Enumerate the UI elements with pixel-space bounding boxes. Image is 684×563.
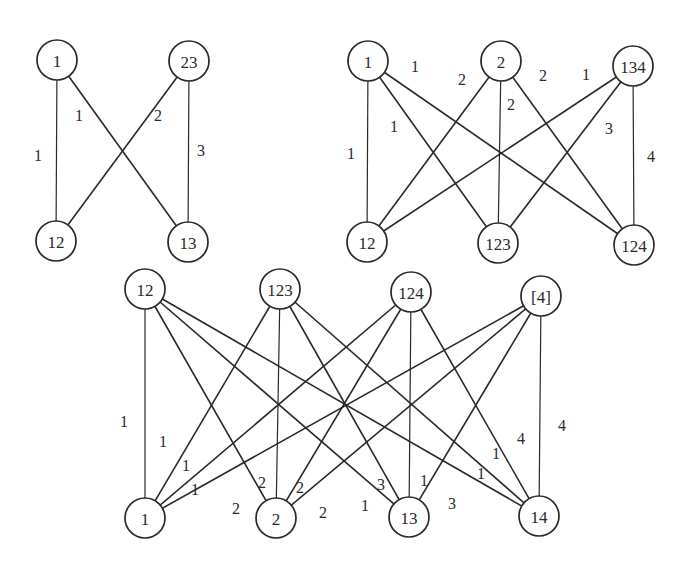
graph-c-edges — [145, 289, 541, 518]
graph-c-edge-labels: 1211123112141234 — [120, 413, 566, 521]
edge-weight-label: 4 — [647, 148, 655, 165]
edge-weight-label: 2 — [154, 107, 162, 124]
node-b-1: 1 — [348, 41, 388, 81]
edge-c-4-c-14 — [539, 296, 541, 516]
edge-weight-label: 2 — [296, 479, 304, 496]
edge-weight-label: 1 — [582, 66, 590, 83]
node-b-12: 12 — [347, 222, 387, 262]
edge-weight-label: 1 — [34, 147, 42, 164]
edge-weight-label: 1 — [492, 445, 500, 462]
edge-weight-label: 2 — [539, 67, 547, 84]
edge-weight-label: 2 — [319, 504, 327, 521]
node-b-134: 134 — [613, 46, 653, 86]
edge-weight-label: 1 — [159, 433, 167, 450]
node-a-12: 12 — [36, 221, 76, 261]
node-label: 123 — [485, 235, 511, 254]
node-b-2: 2 — [481, 41, 521, 81]
edge-b-134-b-124 — [633, 66, 634, 245]
edge-weight-label: 1 — [191, 481, 199, 498]
edge-c-4-c-2 — [276, 296, 541, 518]
graph-b-edges — [367, 61, 634, 245]
edge-weight-label: 3 — [197, 142, 205, 159]
edge-weight-label: 3 — [448, 495, 456, 512]
node-label: 123 — [267, 281, 293, 300]
edge-weight-label: 2 — [232, 500, 240, 517]
node-label: 1 — [53, 52, 62, 71]
edge-c-4-c-1 — [145, 296, 541, 518]
edge-weight-label: 1 — [477, 465, 485, 482]
node-c-1: 1 — [125, 498, 165, 538]
node-label: 1 — [364, 53, 373, 72]
nodes-layer: 1231213121341212312412123124[4]121314 — [36, 40, 654, 538]
node-a-23: 23 — [169, 41, 209, 81]
edge-weight-label: 1 — [347, 145, 355, 162]
node-label: 1 — [141, 510, 150, 529]
node-a-1: 1 — [37, 40, 77, 80]
node-b-124: 124 — [614, 225, 654, 265]
node-label: 13 — [180, 234, 197, 253]
edge-weight-label: 1 — [361, 497, 369, 514]
node-c-2: 2 — [256, 498, 296, 538]
node-label: 13 — [401, 509, 418, 528]
node-b-123: 123 — [478, 223, 518, 263]
edge-a-23-a-12 — [56, 61, 189, 241]
edge-weight-label: 1 — [390, 118, 398, 135]
node-label: 14 — [531, 508, 549, 527]
node-label: 12 — [137, 281, 154, 300]
node-a-13: 13 — [168, 222, 208, 262]
edge-weight-label: 2 — [507, 96, 515, 113]
node-label: 124 — [621, 237, 647, 256]
edge-weight-label: 2 — [258, 474, 266, 491]
edge-weight-label: 1 — [120, 413, 128, 430]
edge-c-12-c-14 — [145, 289, 539, 516]
node-c-13: 13 — [389, 497, 429, 537]
node-c-4: [4] — [521, 276, 561, 316]
edge-weight-label: 2 — [458, 71, 466, 88]
node-label: [4] — [531, 288, 551, 307]
node-label: 2 — [272, 510, 281, 529]
node-label: 124 — [398, 284, 424, 303]
node-label: 12 — [48, 233, 65, 252]
node-label: 12 — [359, 234, 376, 253]
edge-weight-label: 1 — [420, 472, 428, 489]
diagram-canvas: 11231112221341211123112141234 1231213121… — [0, 0, 684, 563]
edge-weight-label: 4 — [517, 430, 525, 447]
node-c-12: 12 — [125, 269, 165, 309]
node-c-123: 123 — [260, 269, 300, 309]
edge-weight-label: 1 — [182, 457, 190, 474]
node-label: 134 — [620, 58, 646, 77]
edge-a-23-a-13 — [188, 61, 189, 242]
edge-weight-label: 3 — [377, 476, 385, 493]
node-c-14: 14 — [519, 496, 559, 536]
graph-a-edges — [56, 60, 189, 242]
edge-weight-label: 4 — [558, 417, 566, 434]
edge-a-1-a-12 — [56, 60, 57, 241]
edge-b-1-b-12 — [367, 61, 368, 242]
edge-weight-label: 1 — [411, 58, 419, 75]
node-label: 2 — [497, 53, 506, 72]
node-c-124: 124 — [391, 272, 431, 312]
edge-weight-label: 1 — [75, 107, 83, 124]
edge-weight-label: 3 — [605, 120, 613, 137]
node-label: 23 — [181, 53, 198, 72]
